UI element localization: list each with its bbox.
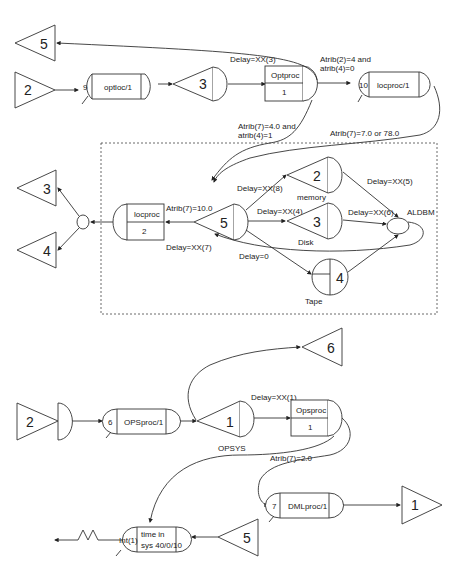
source-2-bottom-label: 2 [26,414,34,430]
label-atrib2-line1: Atrib(2)=4 and [320,55,371,64]
source-node-2[interactable]: 2 [15,72,55,108]
optloc-activity[interactable]: 9 optloc/1 [82,74,150,104]
label-delay-xx8: Delay=XX(8) [237,184,283,193]
locproc-resource[interactable]: locproc 2 [113,204,164,240]
label-atrib7-2: Atrib(7)=2.0 [270,454,313,463]
source-node-5[interactable]: 5 [218,519,258,556]
opsproc1-count: 6 [108,418,113,427]
sink-6-label: 6 [327,340,335,356]
opsys-label: OPSYS [218,444,246,453]
locproc1-activity[interactable]: 10 locproc/1 [358,72,430,102]
locproc-servers: 2 [142,227,147,236]
source-2-label: 2 [24,82,32,98]
disk-num: 3 [313,214,321,230]
network-diagram: 5 2 9 optloc/1 3 Delay=XX(3) Optproc 1 A… [0,0,456,568]
opsys-queue-node-1[interactable]: 1 OPSYS [197,401,254,453]
int-line1: time in [141,530,165,539]
aldbm-node[interactable]: ALDBM [387,208,435,234]
memory-queue-node-2[interactable]: 2 memory [287,157,342,202]
queue-3-label: 3 [199,76,207,92]
locproc1-label: locproc/1 [377,81,410,90]
sink-node-5[interactable]: 5 [15,25,55,61]
sink-1-label: 1 [411,497,419,513]
optloc-label: optloc/1 [104,83,133,92]
sink-3-label: 3 [43,181,51,197]
label-delay-xx1: Delay=XX(1) [251,393,297,402]
label-delay-0: Delay=0 [239,252,269,261]
label-delay-xx6: Delay=XX(6) [348,208,394,217]
locproc1-count: 10 [359,81,368,90]
aldbm-label: ALDBM [407,208,435,217]
queue-5-label: 5 [220,215,228,231]
label-delay-xx3: Delay=XX(3) [230,55,276,64]
queue-1-num: 1 [226,414,234,430]
opsproc-title: Opsproc [296,406,326,415]
disk-label: Disk [298,238,315,247]
opsproc-servers: 1 [308,423,313,432]
source-5-label: 5 [243,530,251,546]
label-atrib7-4-line1: Atrib(7)=4.0 and [238,122,296,131]
opsproc1-label: OPSproc/1 [124,418,164,427]
label-atrib7-10: Atrib(7)=10.0 [166,204,213,213]
opsproc-resource[interactable]: Opsproc 1 [291,400,342,436]
branch-node[interactable] [77,215,89,229]
optproc-resource[interactable]: Optproc 1 [265,66,317,101]
optproc-title: Optproc [271,71,299,80]
label-atrib7-7: Atrib(7)=7.0 or 78.0 [330,129,400,138]
queue-node-3[interactable]: 3 [173,67,227,101]
locproc-title: locproc [134,210,160,219]
dmlproc-count: 7 [272,502,277,511]
label-atrib7-4-line2: atrib(4)=1 [238,131,273,140]
tape-num: 4 [336,270,344,286]
sink-node-1[interactable]: 1 [402,486,442,524]
opsproc1-activity[interactable]: 6 OPSproc/1 [102,409,180,438]
int-collector-node[interactable]: Int(1) time in sys 40/0/10 [116,527,192,556]
label-delay-xx7: Delay=XX(7) [166,243,212,252]
label-delay-xx5: Delay=XX(5) [367,177,413,186]
sink-node-3[interactable]: 3 [17,170,56,206]
label-delay-xx4: Delay=XX(4) [257,207,303,216]
terminate-zigzag-icon [55,530,122,540]
sink-node-4[interactable]: 4 [17,232,56,268]
tape-server-node-4[interactable]: 4 Tape [305,259,348,306]
int-count: Int(1) [119,536,138,545]
int-line2: sys 40/0/10 [141,541,182,550]
source-node-2-bottom[interactable]: 2 [17,403,72,440]
optloc-count: 9 [83,83,88,92]
optproc-servers: 1 [282,88,287,97]
sink-5-label: 5 [40,36,48,52]
memory-label: memory [297,193,326,202]
sink-node-6[interactable]: 6 [302,328,342,366]
dmlproc-activity[interactable]: 7 DMLproc/1 [265,493,343,522]
memory-num: 2 [313,168,321,184]
dmlproc-label: DMLproc/1 [288,502,328,511]
tape-label: Tape [305,297,323,306]
label-atrib2-line2: atrib(4)=0 [320,64,355,73]
sink-4-label: 4 [43,243,51,259]
